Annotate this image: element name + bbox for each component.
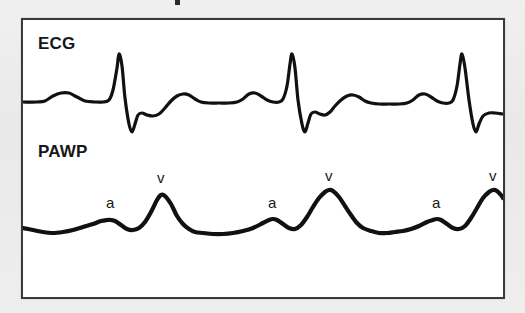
ecg-lane-label: ECG (38, 34, 75, 54)
pawp-trace-group (23, 190, 503, 234)
wave-label-v-1: v (157, 170, 165, 185)
page-background: ECG PAWP avavav (0, 0, 525, 313)
pawp-lane-label: PAWP (38, 142, 88, 162)
ecg-waveform-path (23, 54, 503, 132)
ecg-trace-group (23, 54, 503, 132)
wave-label-v-2: v (325, 168, 333, 183)
wave-label-a-3: a (432, 195, 440, 210)
clipped-text-fragment (175, 0, 180, 5)
wave-label-a-2: a (268, 195, 276, 210)
wave-label-v-3: v (489, 168, 497, 183)
figure-panel: ECG PAWP avavav (21, 18, 505, 299)
pawp-waveform-path (23, 190, 503, 234)
waveform-chart (23, 20, 503, 297)
wave-label-a-1: a (106, 195, 114, 210)
